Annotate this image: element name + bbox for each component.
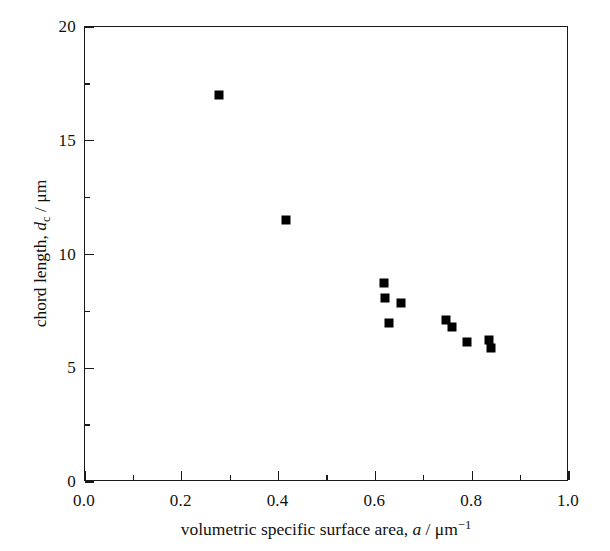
x-tick-major — [568, 471, 569, 480]
x-tick-major — [375, 471, 376, 480]
x-axis-unit-separator: / — [421, 519, 435, 539]
y-axis-symbol-subscript: c — [39, 216, 53, 222]
x-axis-title-prefix: volumetric specific surface area, — [181, 519, 413, 539]
data-point-marker — [384, 318, 393, 327]
x-tick-label: 0.8 — [460, 492, 482, 509]
y-tick-label: 0 — [67, 473, 76, 490]
data-point-marker — [379, 278, 388, 287]
data-point-marker — [215, 91, 224, 100]
y-tick-major — [85, 368, 94, 369]
x-axis-unit-exponent: −1 — [458, 518, 471, 532]
x-tick-minor — [520, 475, 521, 480]
y-tick-label: 15 — [59, 131, 76, 148]
data-point-marker — [281, 216, 290, 225]
scatter-chart-figure: 05101520 0.00.20.40.60.81.0 volumetric s… — [0, 0, 610, 551]
data-point-marker — [396, 299, 405, 308]
data-point-marker — [486, 343, 495, 352]
data-point-marker — [381, 293, 390, 302]
x-axis-title: volumetric specific surface area, a / μm… — [84, 518, 568, 540]
x-axis-tick-labels: 0.00.20.40.60.81.0 — [84, 492, 568, 514]
data-point-marker — [447, 323, 456, 332]
y-tick-major — [85, 26, 94, 27]
x-tick-minor — [326, 475, 327, 480]
x-tick-minor — [133, 475, 134, 480]
x-axis-symbol: a — [412, 519, 421, 539]
y-tick-minor — [85, 83, 90, 84]
x-tick-label: 0.4 — [267, 492, 289, 509]
y-tick-minor — [85, 424, 90, 425]
x-tick-label: 0.6 — [363, 492, 385, 509]
y-axis-title: chord length, dc / μm — [30, 26, 54, 481]
y-axis-symbol: d — [30, 222, 50, 231]
y-tick-major — [85, 254, 94, 255]
x-tick-label: 0.0 — [73, 492, 95, 509]
x-axis-unit: μm — [435, 519, 458, 539]
y-tick-label: 10 — [59, 245, 76, 262]
x-tick-minor — [230, 475, 231, 480]
x-tick-minor — [423, 475, 424, 480]
y-tick-major — [85, 481, 94, 482]
y-axis-title-prefix: chord length, — [30, 231, 50, 328]
y-tick-minor — [85, 197, 90, 198]
x-tick-major — [84, 471, 85, 480]
data-point-marker — [463, 338, 472, 347]
x-tick-label: 1.0 — [557, 492, 579, 509]
plot-area — [84, 26, 568, 481]
x-tick-major — [181, 471, 182, 480]
y-tick-label: 20 — [59, 18, 76, 35]
y-axis-unit: μm — [30, 180, 50, 203]
y-tick-label: 5 — [67, 359, 76, 376]
y-axis-unit-separator: / — [30, 203, 50, 217]
y-tick-minor — [85, 311, 90, 312]
y-tick-major — [85, 140, 94, 141]
x-tick-label: 0.2 — [170, 492, 192, 509]
x-tick-major — [472, 471, 473, 480]
x-tick-major — [278, 471, 279, 480]
